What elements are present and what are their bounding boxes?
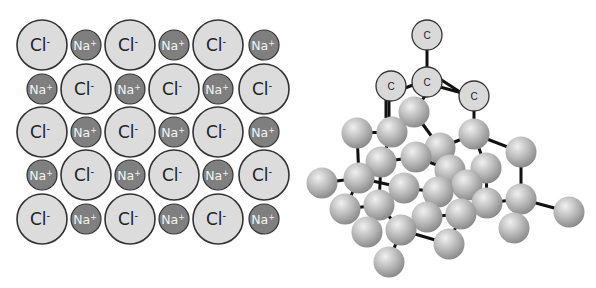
carbon-sphere [434,229,465,260]
sodium-ion: Na+ [71,204,101,234]
sodium-ion: Na+ [159,204,189,234]
sodium-ion: Na+ [249,30,279,60]
chloride-ion: Cl- [239,64,289,114]
labeled-carbon-group: CCCC [376,20,489,111]
chemistry-diagram: Cl-Na+Cl-Na+Cl-Na+Na+Cl-Na+Cl-Na+Cl-Cl-N… [0,0,596,288]
carbon-sphere [446,199,477,230]
carbon-sphere [459,119,490,150]
carbon-label: C [423,77,430,88]
chloride-ion: Cl- [17,107,67,157]
sodium-ion: Na+ [203,74,233,104]
carbon-sphere [377,117,408,148]
chloride-ion: Cl- [61,150,111,200]
carbon-sphere [307,168,338,199]
carbon-sphere [342,118,373,149]
chloride-ion: Cl- [193,194,243,244]
labeled-carbon-atom: C [412,20,442,50]
diamond-lattice: CCCC [307,20,585,278]
carbon-sphere [344,163,375,194]
chloride-ion: Cl- [193,107,243,157]
labeled-carbon-atom: C [376,71,406,101]
carbon-label: C [387,81,394,92]
carbon-sphere [352,217,383,248]
chloride-ion: Cl- [239,150,289,200]
sodium-ion: Na+ [249,204,279,234]
sodium-ion: Na+ [115,160,145,190]
sodium-ion: Na+ [115,74,145,104]
chloride-ion: Cl- [105,194,155,244]
carbon-sphere [506,137,537,168]
sodium-ion: Na+ [71,117,101,147]
sodium-ion: Na+ [27,74,57,104]
chloride-ion: Cl- [17,20,67,70]
chloride-ion: Cl- [105,107,155,157]
sodium-ion: Na+ [159,30,189,60]
carbon-sphere [554,197,585,228]
sodium-ion: Na+ [27,160,57,190]
chloride-ion: Cl- [149,150,199,200]
chloride-ion: Cl- [17,194,67,244]
carbon-sphere [374,247,405,278]
carbon-sphere-group [307,97,585,278]
nacl-lattice: Cl-Na+Cl-Na+Cl-Na+Na+Cl-Na+Cl-Na+Cl-Cl-N… [17,20,289,244]
sodium-ion: Na+ [203,160,233,190]
carbon-label: C [470,91,477,102]
sodium-ion: Na+ [159,117,189,147]
chloride-ion: Cl- [61,64,111,114]
chloride-ion: Cl- [193,20,243,70]
carbon-sphere [386,215,417,246]
carbon-sphere [364,190,395,221]
carbon-sphere [506,184,537,215]
chloride-ion: Cl- [105,20,155,70]
chloride-ion: Cl- [149,64,199,114]
labeled-carbon-atom: C [412,67,442,97]
sodium-ion: Na+ [71,30,101,60]
carbon-sphere [330,194,361,225]
carbon-label: C [423,30,430,41]
carbon-sphere [401,142,432,173]
carbon-sphere [499,213,530,244]
sodium-ion: Na+ [249,117,279,147]
labeled-carbon-atom: C [459,81,489,111]
